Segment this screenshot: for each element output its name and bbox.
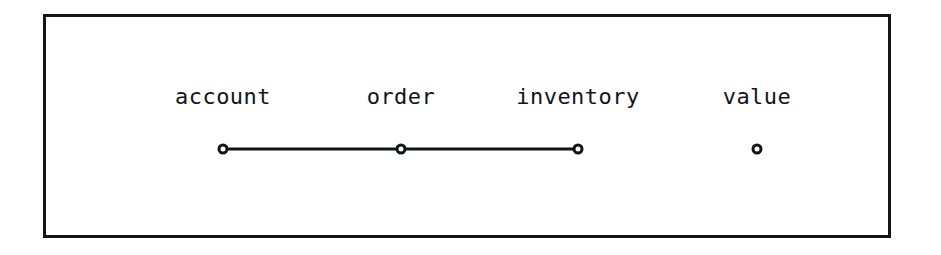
node-label-order[interactable]: order [367, 84, 436, 110]
node-marker-account[interactable] [218, 144, 229, 155]
node-label-account[interactable]: account [175, 84, 271, 110]
node-label-inventory[interactable]: inventory [516, 84, 640, 110]
node-label-value[interactable]: value [723, 84, 792, 110]
figure-border-frame [43, 14, 891, 238]
node-marker-value[interactable] [752, 144, 763, 155]
node-marker-order[interactable] [396, 144, 407, 155]
figure-canvas: accountorderinventoryvalue [0, 0, 941, 255]
node-marker-inventory[interactable] [573, 144, 584, 155]
